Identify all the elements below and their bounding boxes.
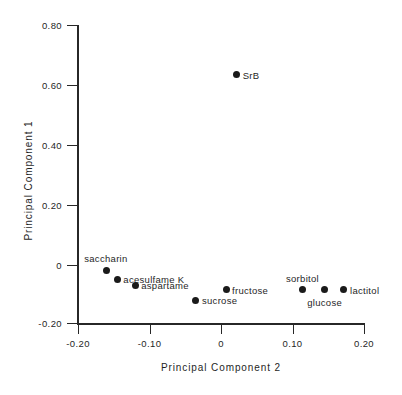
data-point [192,297,199,304]
y-tick-mark [67,265,77,266]
data-point [233,71,240,78]
y-tick-mark [67,25,77,26]
x-tick-mark [221,325,222,334]
x-tick-label: -0.10 [138,338,162,349]
x-tick-label: 0.10 [282,338,302,349]
data-point-label: lactitol [350,284,379,295]
data-point [223,286,230,293]
data-point [132,282,139,289]
data-point-label: fructose [232,284,268,295]
y-axis-line [77,25,79,325]
x-axis-title: Principal Component 2 [77,362,365,373]
data-point [103,267,110,274]
x-tick-mark [150,325,151,334]
data-point-label: saccharin [84,253,127,264]
x-tick-mark [293,325,294,334]
y-tick-label: 0.80 [0,20,62,31]
data-point-label: sucrose [202,295,237,306]
scatter-plot: 0.800.600.400.200-0.20 -0.20-0.1000.100.… [0,0,402,395]
y-tick-label: 0.60 [0,80,62,91]
y-tick-mark [67,323,77,324]
y-tick-mark [67,85,77,86]
x-tick-label: 0 [218,338,224,349]
data-point-label: SrB [243,69,260,80]
data-point [114,276,121,283]
x-tick-mark [78,325,79,334]
x-tick-label: 0.20 [354,338,374,349]
data-point [321,286,328,293]
data-point-label: glucose [307,296,342,307]
x-tick-mark [364,325,365,334]
data-point-label: aspartame [141,280,189,291]
data-point [340,286,347,293]
x-tick-label: -0.20 [66,338,90,349]
y-axis-title: Principal Component 1 [23,91,34,271]
data-point-label: sorbitol [286,272,319,283]
data-point [299,286,306,293]
y-tick-label: -0.20 [0,318,62,329]
y-tick-mark [67,205,77,206]
y-tick-mark [67,145,77,146]
